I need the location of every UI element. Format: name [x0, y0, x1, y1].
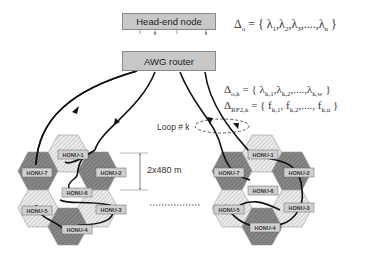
loop-k-label: Loop # k — [157, 122, 190, 132]
delta-rf2k-equation: ΔRF2,k = { fk,1, fk,2,...., fk,u } — [224, 99, 338, 114]
head-end-node: Head-end node — [122, 13, 216, 30]
svg-text:HONU-7: HONU-7 — [26, 170, 47, 176]
svg-text:HONU-3: HONU-3 — [288, 205, 309, 211]
svg-text:HONU-6: HONU-6 — [252, 188, 273, 194]
svg-text:HONU-4: HONU-4 — [66, 227, 88, 233]
flow-arrows — [72, 106, 239, 129]
awg-router: AWG router — [122, 51, 216, 71]
svg-text:HONU-5: HONU-5 — [26, 208, 47, 214]
svg-text:HONU-1: HONU-1 — [252, 152, 273, 158]
distance-label: 2x480 m — [147, 165, 182, 175]
loop-k-ellipse — [195, 119, 249, 133]
delta-ok-equation: Δo,k = { λk,1,λk,2,....,λk,w } — [224, 83, 331, 98]
svg-text:HONU-5: HONU-5 — [218, 207, 239, 213]
svg-text:HONU-1: HONU-1 — [62, 152, 83, 158]
svg-text:HONU-6: HONU-6 — [66, 190, 87, 196]
svg-text:HONU-7: HONU-7 — [218, 170, 239, 176]
svg-text:HONU-2: HONU-2 — [288, 170, 309, 176]
svg-text:HONU-4: HONU-4 — [254, 225, 276, 231]
svg-text:HONU-3: HONU-3 — [100, 207, 121, 213]
svg-text:HONU-2: HONU-2 — [100, 170, 121, 176]
delta-o-equation: Δo = { λ1,λ2,λ3,....,λn } — [234, 17, 337, 33]
